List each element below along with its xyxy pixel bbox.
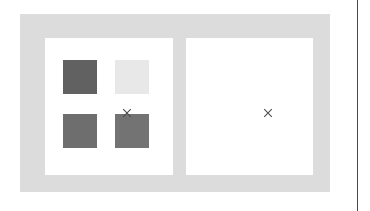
swatch-top-left[interactable]	[63, 60, 97, 94]
swatch-top-right[interactable]	[115, 60, 149, 94]
comparison-frame	[20, 14, 330, 192]
page-edge-rule	[357, 0, 358, 211]
swatch-bottom-right[interactable]	[115, 114, 149, 148]
swatch-panel[interactable]	[45, 38, 173, 175]
swatch-grid	[63, 60, 155, 152]
screenshot-canvas	[0, 0, 370, 211]
empty-panel[interactable]	[186, 38, 313, 175]
swatch-bottom-left[interactable]	[63, 114, 97, 148]
